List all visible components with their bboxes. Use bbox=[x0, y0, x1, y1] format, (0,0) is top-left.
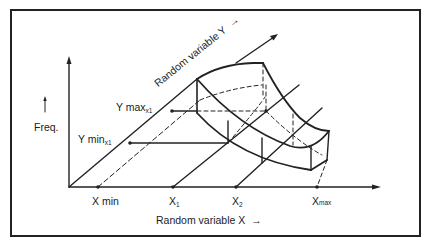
xmax-vertical-back bbox=[327, 131, 329, 160]
y-axis-upper bbox=[236, 37, 274, 63]
ymax-label: Y maxx1 bbox=[116, 102, 152, 115]
ymin-dot bbox=[128, 141, 132, 145]
surface-top-arc bbox=[197, 63, 263, 79]
xmin-dot bbox=[96, 185, 100, 189]
x-axis-label-arrow-icon: → bbox=[251, 214, 262, 226]
surface-end-bottom bbox=[311, 160, 327, 170]
x-tick-xmax: Xmax bbox=[312, 196, 331, 207]
x1-dot bbox=[171, 185, 175, 189]
frequency-axis-arrowhead bbox=[67, 56, 72, 64]
x-axis-arrowhead bbox=[372, 185, 381, 190]
x-axis-label: Random variable X → bbox=[156, 215, 262, 226]
x-tick-xmin: X min bbox=[92, 196, 119, 207]
xmax-dot bbox=[315, 185, 319, 189]
x2-dot bbox=[234, 185, 238, 189]
ymin-label: Y minx1 bbox=[78, 134, 112, 147]
ymax-dot bbox=[170, 109, 174, 113]
x1-diagonal bbox=[173, 85, 299, 187]
x-tick-x2: X2 bbox=[232, 196, 243, 209]
x-tick-x1: X1 bbox=[169, 196, 180, 209]
frequency-axis-label: Freq. bbox=[34, 122, 59, 133]
center-dot bbox=[264, 109, 268, 113]
surface-back-curve bbox=[263, 63, 329, 131]
